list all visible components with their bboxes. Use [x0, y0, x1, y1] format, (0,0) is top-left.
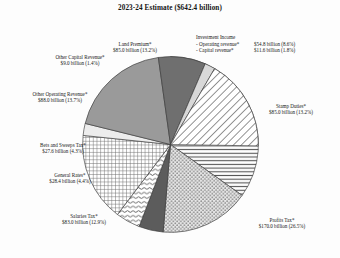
label-salaries-tax-value: $83.0 billion (12.9%): [38, 219, 130, 225]
label-investment-income-heading: Investment Income: [196, 34, 295, 41]
label-stamp-duties-value: $85.0 billion (13.2%): [248, 109, 334, 115]
label-profits-tax: Profits Tax* $170.0 billion (26.5%): [232, 217, 332, 230]
label-other-capital-revenue: Other Capital Revenue* $9.0 billion (1.4…: [32, 54, 128, 67]
label-general-rates-value: $28.4 billion (4.4%): [26, 178, 114, 184]
label-bets-and-sweeps-tax: Bets and Sweeps Tax* $27.6 billion (4.3%…: [12, 142, 114, 155]
label-investment-income-operating: - Operating revenue*$54.8 billion (8.6%): [196, 41, 295, 48]
label-other-capital-revenue-value: $9.0 billion (1.4%): [32, 60, 128, 66]
label-land-premium-value: $85.0 billion (13.2%): [90, 47, 180, 53]
label-profits-tax-value: $170.0 billion (26.5%): [232, 223, 332, 229]
label-other-operating-revenue: Other Operating Revenue* $88.0 billion (…: [6, 91, 114, 104]
label-general-rates: General Rates* $28.4 billion (4.4%): [26, 172, 114, 185]
label-bets-and-sweeps-tax-value: $27.6 billion (4.3%): [12, 148, 114, 154]
label-investment-income-operating-key: - Operating revenue*: [196, 41, 254, 48]
pie-chart-figure: 2023-24 Estimate ($642.4 billion): [0, 0, 340, 258]
label-investment-income-capital-key: - Capital revenue*: [196, 47, 254, 54]
chart-title: 2023-24 Estimate ($642.4 billion): [0, 4, 340, 12]
label-investment-income-capital: - Capital revenue*$11.6 billion (1.8%): [196, 47, 295, 54]
label-other-operating-revenue-value: $88.0 billion (13.7%): [6, 97, 114, 103]
label-investment-income: Investment Income - Operating revenue*$5…: [196, 34, 295, 54]
label-land-premium: Land Premium* $85.0 billion (13.2%): [90, 41, 180, 54]
label-investment-income-capital-value: $11.6 billion (1.8%): [254, 47, 295, 54]
label-stamp-duties: Stamp Duties* $85.0 billion (13.2%): [248, 103, 334, 116]
label-salaries-tax: Salaries Tax* $83.0 billion (12.9%): [38, 213, 130, 226]
label-investment-income-operating-value: $54.8 billion (8.6%): [254, 41, 295, 48]
